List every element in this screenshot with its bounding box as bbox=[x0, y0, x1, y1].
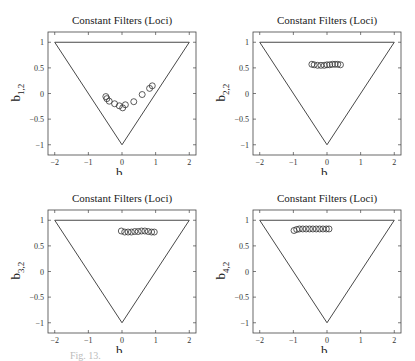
y-tick-label: 1 bbox=[245, 216, 249, 225]
data-point bbox=[131, 99, 137, 105]
y-tick-label: 0.5 bbox=[34, 242, 44, 251]
y-tick-label: −1 bbox=[240, 319, 249, 328]
x-axis-label: b4,1 bbox=[321, 343, 339, 353]
y-axis-label: b4,2 bbox=[213, 262, 231, 280]
subplot-b4: Constant Filters (Loci)−2−1012−1−0.500.5… bbox=[205, 178, 412, 353]
x-tick-label: −2 bbox=[50, 336, 59, 345]
x-tick-label: −1 bbox=[84, 158, 93, 167]
stability-triangle bbox=[55, 220, 190, 323]
subplot-b1: Constant Filters (Loci)−2−1012−1−0.500.5… bbox=[0, 0, 207, 175]
x-axis-label: b1,1 bbox=[116, 165, 134, 175]
y-tick-label: −1 bbox=[35, 141, 44, 150]
y-tick-label: 1 bbox=[245, 38, 249, 47]
x-tick-label: 2 bbox=[187, 336, 191, 345]
y-tick-label: 0.5 bbox=[34, 64, 44, 73]
data-point bbox=[104, 96, 110, 102]
stability-triangle bbox=[55, 42, 190, 145]
plot-svg: Constant Filters (Loci)−2−1012−1−0.500.5… bbox=[0, 178, 207, 353]
y-tick-label: 0 bbox=[245, 90, 249, 99]
axes-frame bbox=[253, 210, 401, 333]
y-tick-label: 0 bbox=[245, 268, 249, 277]
subplot-b3: Constant Filters (Loci)−2−1012−1−0.500.5… bbox=[0, 178, 207, 353]
x-tick-label: 1 bbox=[154, 158, 158, 167]
y-tick-label: 1 bbox=[40, 38, 44, 47]
y-tick-label: −1 bbox=[240, 141, 249, 150]
plot-title: Constant Filters (Loci) bbox=[72, 192, 173, 205]
x-axis-label: b3,1 bbox=[116, 343, 134, 353]
x-tick-label: −2 bbox=[255, 158, 264, 167]
y-tick-label: 0.5 bbox=[239, 64, 249, 73]
x-tick-label: 2 bbox=[187, 158, 191, 167]
x-tick-label: −1 bbox=[289, 158, 298, 167]
x-tick-label: −1 bbox=[84, 336, 93, 345]
plot-svg: Constant Filters (Loci)−2−1012−1−0.500.5… bbox=[0, 0, 207, 175]
y-axis-label: b2,2 bbox=[213, 84, 231, 102]
subplot-b2: Constant Filters (Loci)−2−1012−1−0.500.5… bbox=[205, 0, 412, 175]
x-tick-label: 1 bbox=[359, 158, 363, 167]
y-tick-label: −0.5 bbox=[234, 293, 249, 302]
y-axis-label: b1,2 bbox=[8, 84, 26, 102]
y-tick-label: 0 bbox=[40, 268, 44, 277]
y-tick-label: −0.5 bbox=[234, 115, 249, 124]
plot-title: Constant Filters (Loci) bbox=[277, 192, 378, 205]
axes-frame bbox=[253, 32, 401, 155]
y-tick-label: 0.5 bbox=[239, 242, 249, 251]
x-tick-label: −2 bbox=[50, 158, 59, 167]
axes-frame bbox=[48, 32, 196, 155]
plot-svg: Constant Filters (Loci)−2−1012−1−0.500.5… bbox=[205, 178, 412, 353]
y-tick-label: −0.5 bbox=[29, 115, 44, 124]
y-axis-label: b3,2 bbox=[8, 262, 26, 280]
y-tick-label: −1 bbox=[35, 319, 44, 328]
x-tick-label: 1 bbox=[154, 336, 158, 345]
plot-title: Constant Filters (Loci) bbox=[72, 14, 173, 27]
x-tick-label: −2 bbox=[255, 336, 264, 345]
x-tick-label: 2 bbox=[392, 158, 396, 167]
x-tick-label: 2 bbox=[392, 336, 396, 345]
y-tick-label: 0 bbox=[40, 90, 44, 99]
plot-title: Constant Filters (Loci) bbox=[277, 14, 378, 27]
x-axis-label: b2,1 bbox=[321, 165, 339, 175]
x-tick-label: 1 bbox=[359, 336, 363, 345]
x-tick-label: −1 bbox=[289, 336, 298, 345]
y-tick-label: −0.5 bbox=[29, 293, 44, 302]
plot-svg: Constant Filters (Loci)−2−1012−1−0.500.5… bbox=[205, 0, 412, 175]
figure-caption: Fig. 13. bbox=[70, 350, 101, 361]
stability-triangle bbox=[260, 220, 395, 323]
stability-triangle bbox=[260, 42, 395, 145]
data-point bbox=[139, 92, 145, 98]
y-tick-label: 1 bbox=[40, 216, 44, 225]
